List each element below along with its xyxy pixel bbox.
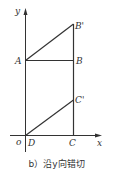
point-Bprime-label: B' — [74, 21, 84, 31]
origin-label: o — [16, 137, 22, 147]
shear-diagram: y x o A B B' C' C D — [0, 0, 113, 177]
x-axis-label: x — [97, 138, 102, 148]
point-C-label: C — [69, 138, 76, 148]
figure-caption: b）沿y向错切 — [0, 157, 113, 170]
point-A-label: A — [14, 56, 22, 66]
segment-ABprime — [26, 24, 74, 61]
x-axis-arrow-icon — [95, 134, 102, 138]
y-axis-label: y — [14, 6, 21, 16]
point-B-label: B — [75, 56, 83, 66]
point-D-label: D — [27, 138, 35, 148]
segment-DCprime — [26, 100, 74, 136]
point-Cprime-label: C' — [75, 95, 84, 105]
y-axis-arrow-icon — [24, 8, 28, 15]
